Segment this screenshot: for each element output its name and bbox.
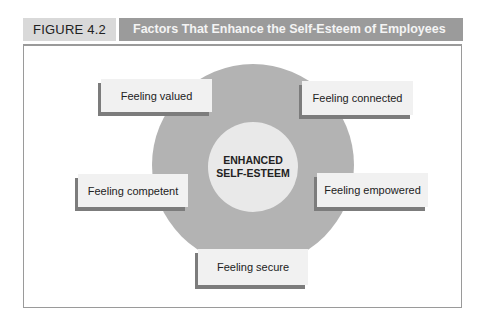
figure-title: Factors That Enhance the Self-Esteem of …: [119, 18, 463, 41]
center-label-line1: ENHANCED: [216, 154, 290, 167]
factor-box-connected: Feeling connected: [302, 81, 413, 115]
center-label-line2: SELF-ESTEEM: [216, 167, 290, 180]
inner-circle: ENHANCED SELF-ESTEEM: [208, 122, 298, 212]
factor-box-empowered: Feeling empowered: [317, 173, 428, 207]
figure-label: FIGURE 4.2: [23, 18, 116, 41]
factor-box-competent: Feeling competent: [78, 174, 188, 207]
factor-box-secure: Feeling secure: [198, 249, 308, 285]
center-label: ENHANCED SELF-ESTEEM: [216, 154, 290, 180]
factor-box-valued: Feeling valued: [101, 79, 212, 112]
